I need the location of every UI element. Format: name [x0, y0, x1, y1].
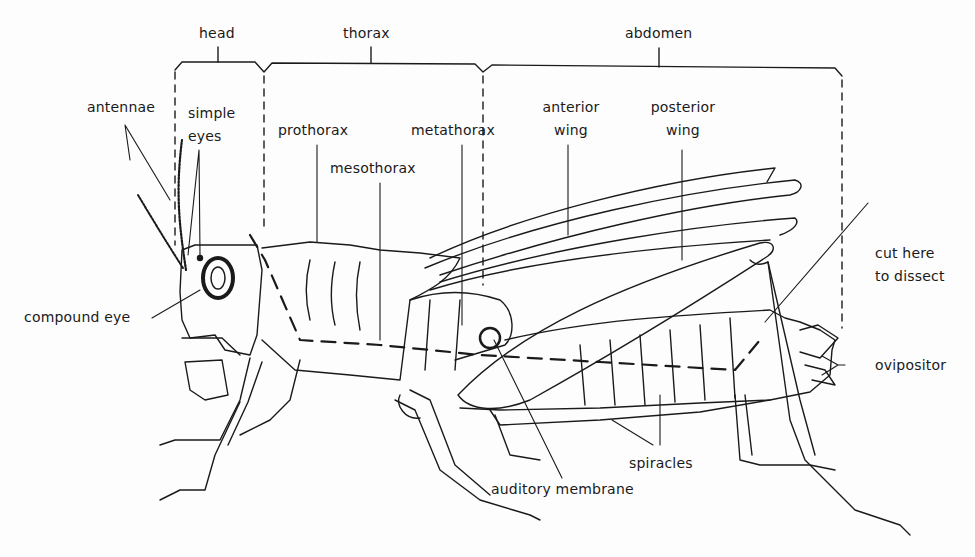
head-drawing — [180, 245, 262, 400]
label-anterior-wing-line2: wing — [537, 122, 605, 139]
grasshopper-diagram: head thorax abdomen antennae simple eyes… — [0, 0, 975, 557]
label-auditory-membrane: auditory membrane — [491, 481, 634, 498]
region-label-head: head — [199, 25, 235, 42]
grasshopper-drawing — [0, 0, 975, 557]
leader-lines — [125, 125, 868, 478]
label-posterior-wing-line2: wing — [644, 122, 722, 139]
thorax-drawing — [262, 242, 512, 380]
label-compound-eye: compound eye — [24, 309, 130, 326]
label-cut-here-line2: to dissect — [875, 268, 945, 285]
label-metathorax: metathorax — [411, 122, 495, 139]
region-label-abdomen: abdomen — [625, 25, 692, 42]
label-simple-eyes-line1: simple — [188, 105, 235, 122]
abdomen-drawing — [460, 310, 838, 425]
label-mesothorax: mesothorax — [330, 160, 416, 177]
region-brackets — [175, 47, 842, 328]
label-simple-eyes-line2: eyes — [188, 128, 222, 145]
label-prothorax: prothorax — [278, 122, 348, 139]
label-ovipositor: ovipositor — [875, 357, 946, 374]
label-antennae: antennae — [87, 99, 155, 116]
label-cut-here-line1: cut here — [875, 245, 935, 262]
region-label-thorax: thorax — [343, 25, 390, 42]
label-posterior-wing-line1: posterior — [644, 99, 722, 116]
label-spiracles: spiracles — [629, 455, 693, 472]
label-anterior-wing-line1: anterior — [537, 99, 605, 116]
